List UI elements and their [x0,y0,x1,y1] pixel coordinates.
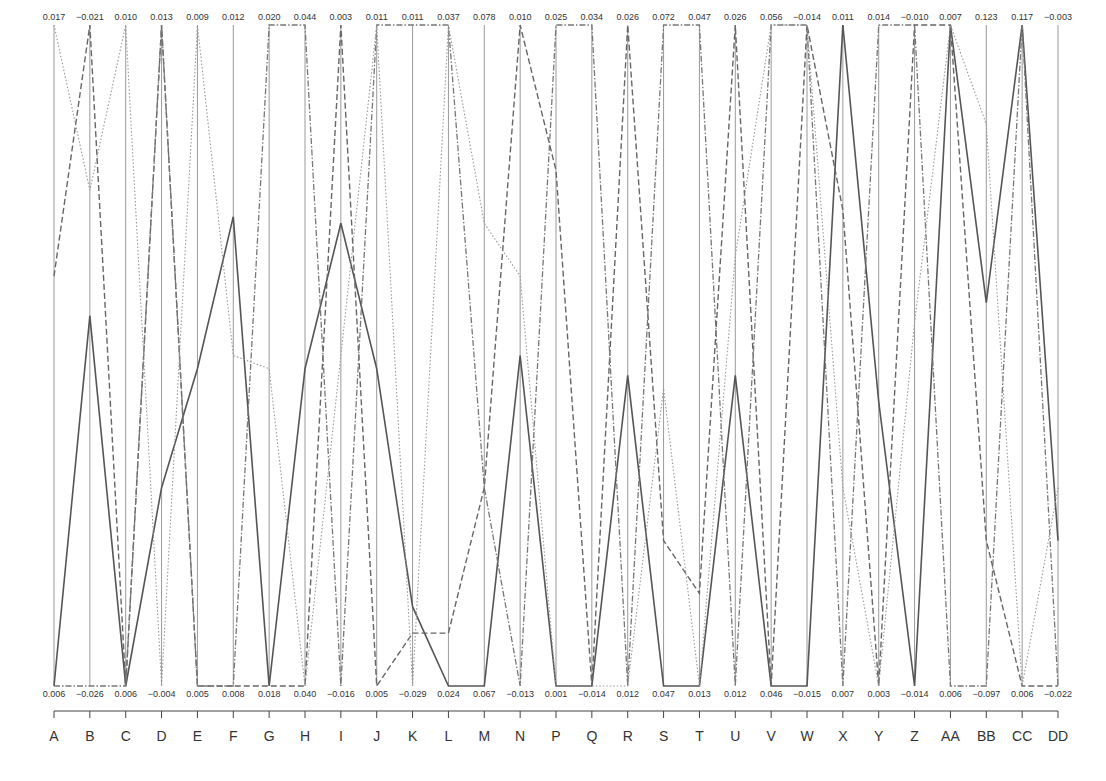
bottom-value-label: 0.067 [473,689,496,699]
top-value-label: 0.010 [509,12,532,22]
category-label-x: X [838,728,848,744]
bottom-value-label: 0.003 [867,689,890,699]
bottom-value-label: 0.005 [365,689,388,699]
bottom-value-label: −0.022 [1044,689,1072,699]
category-label-bb: BB [977,728,996,744]
category-label-cc: CC [1012,728,1032,744]
axis-top-value-labels: 0.017−0.0210.0100.0130.0090.0120.0200.04… [43,12,1072,22]
bottom-value-label: 0.024 [437,689,460,699]
category-label-w: W [800,728,814,744]
bottom-value-label: 0.040 [294,689,317,699]
top-value-label: 0.007 [939,12,962,22]
category-label-a: A [49,728,59,744]
bottom-value-label: 0.001 [545,689,568,699]
bottom-value-label: 0.006 [114,689,137,699]
top-value-label: 0.034 [581,12,604,22]
category-label-e: E [193,728,202,744]
bottom-value-label: −0.013 [506,689,534,699]
top-value-label: 0.026 [616,12,639,22]
category-label-aa: AA [941,728,960,744]
bottom-value-label: 0.005 [186,689,209,699]
bottom-value-label: 0.018 [258,689,281,699]
vertical-axes [54,25,1058,686]
top-value-label: 0.047 [688,12,711,22]
bottom-value-label: 0.008 [222,689,245,699]
category-label-q: Q [586,728,597,744]
category-label-t: T [695,728,704,744]
top-value-label: 0.026 [724,12,747,22]
category-label-h: H [300,728,310,744]
category-label-v: V [766,728,776,744]
category-label-n: N [515,728,525,744]
category-label-i: I [339,728,343,744]
bottom-value-label: −0.026 [76,689,104,699]
top-value-label: −0.014 [793,12,821,22]
category-label-f: F [229,728,238,744]
category-label-k: K [408,728,418,744]
top-value-label: 0.012 [222,12,245,22]
top-value-label: 0.009 [186,12,209,22]
bottom-value-label: −0.014 [578,689,606,699]
category-label-j: J [373,728,380,744]
category-label-p: P [551,728,560,744]
category-labels: ABCDEFGHIJKLMNPQRSTUVWXYZAABBCCDD [49,728,1068,744]
category-label-d: D [157,728,167,744]
top-value-label: 0.013 [150,12,173,22]
top-value-label: 0.037 [437,12,460,22]
bottom-value-label: 0.046 [760,689,783,699]
top-value-label: 0.003 [330,12,353,22]
bottom-value-label: −0.097 [972,689,1000,699]
top-value-label: 0.123 [975,12,998,22]
category-label-u: U [730,728,740,744]
top-value-label: 0.078 [473,12,496,22]
top-value-label: 0.044 [294,12,317,22]
category-label-m: M [478,728,490,744]
top-value-label: 0.020 [258,12,281,22]
category-label-l: L [445,728,453,744]
top-value-label: 0.056 [760,12,783,22]
bottom-value-label: −0.015 [793,689,821,699]
bottom-value-label: −0.004 [148,689,176,699]
top-value-label: 0.025 [545,12,568,22]
bottom-value-label: 0.012 [616,689,639,699]
bottom-value-label: 0.047 [652,689,675,699]
bottom-value-label: 0.006 [43,689,66,699]
top-value-label: 0.011 [366,12,388,22]
top-value-label: 0.117 [1011,12,1033,22]
bottom-value-label: −0.014 [901,689,929,699]
top-value-label: −0.021 [76,12,104,22]
bottom-value-label: 0.006 [1011,689,1034,699]
category-label-y: Y [874,728,884,744]
category-label-z: Z [910,728,919,744]
category-label-c: C [121,728,131,744]
category-label-b: B [85,728,94,744]
top-value-label: 0.010 [114,12,137,22]
axis-bottom-value-labels: 0.006−0.0260.006−0.0040.0050.0080.0180.0… [43,689,1072,699]
category-label-s: S [659,728,668,744]
top-value-label: 0.072 [652,12,675,22]
category-label-r: R [623,728,633,744]
top-value-label: 0.017 [43,12,66,22]
top-value-label: −0.010 [901,12,929,22]
category-label-dd: DD [1048,728,1068,744]
bottom-value-label: 0.013 [688,689,711,699]
top-value-label: 0.011 [402,12,424,22]
bottom-value-label: −0.016 [327,689,355,699]
top-value-label: −0.003 [1044,12,1072,22]
bottom-value-label: 0.006 [939,689,962,699]
bottom-value-label: −0.029 [399,689,427,699]
bottom-value-label: 0.007 [832,689,855,699]
category-axis [54,711,1058,718]
top-value-label: 0.011 [832,12,854,22]
category-label-g: G [264,728,275,744]
parallel-coordinates-chart: 0.017−0.0210.0100.0130.0090.0120.0200.04… [0,0,1106,781]
bottom-value-label: 0.012 [724,689,747,699]
top-value-label: 0.014 [867,12,890,22]
